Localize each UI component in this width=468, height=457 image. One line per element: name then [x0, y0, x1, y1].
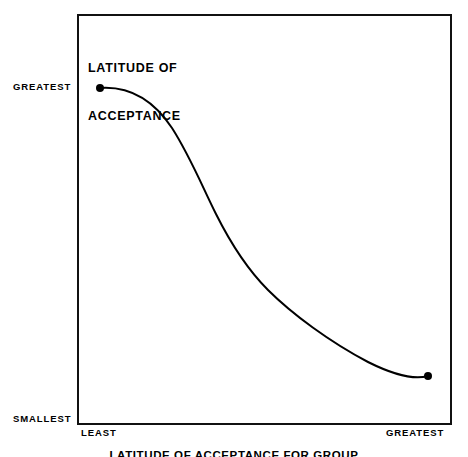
- data-curve-line: [100, 88, 428, 377]
- figure-caption: LATITUDE OF ACCEPTANCE FOR GROUP: [0, 449, 468, 457]
- curve-start-marker: [96, 84, 104, 92]
- curve-end-marker: [424, 372, 432, 380]
- plot-curve-layer: [0, 0, 468, 457]
- figure-panel: LATITUDE OF ACCEPTANCE GREATEST SMALLEST…: [0, 0, 468, 457]
